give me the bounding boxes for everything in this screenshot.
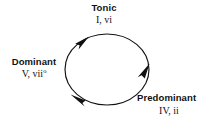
- node-label-predominant: Predominant IV, ii: [137, 92, 208, 117]
- diminished-degree-symbol: o: [43, 67, 46, 74]
- node-label-dominant: Dominant V, viio: [6, 56, 62, 80]
- arrow-to-dominant-icon: [71, 95, 86, 107]
- tonic-function-name: Tonic: [0, 2, 208, 13]
- dominant-function-name: Dominant: [6, 56, 62, 67]
- tonic-chord-list: I, vi: [0, 14, 208, 26]
- arrow-to-tonic-icon: [75, 37, 89, 50]
- harmonic-function-cycle-diagram: Tonic I, vi Dominant V, viio Predominant…: [0, 0, 208, 128]
- dominant-chord-list: V, viio: [6, 68, 62, 80]
- predominant-function-name: Predominant: [137, 92, 208, 103]
- node-label-tonic: Tonic I, vi: [0, 2, 208, 26]
- dominant-chord-text: V, vii: [22, 68, 44, 79]
- predominant-chord-list: IV, ii: [137, 105, 201, 117]
